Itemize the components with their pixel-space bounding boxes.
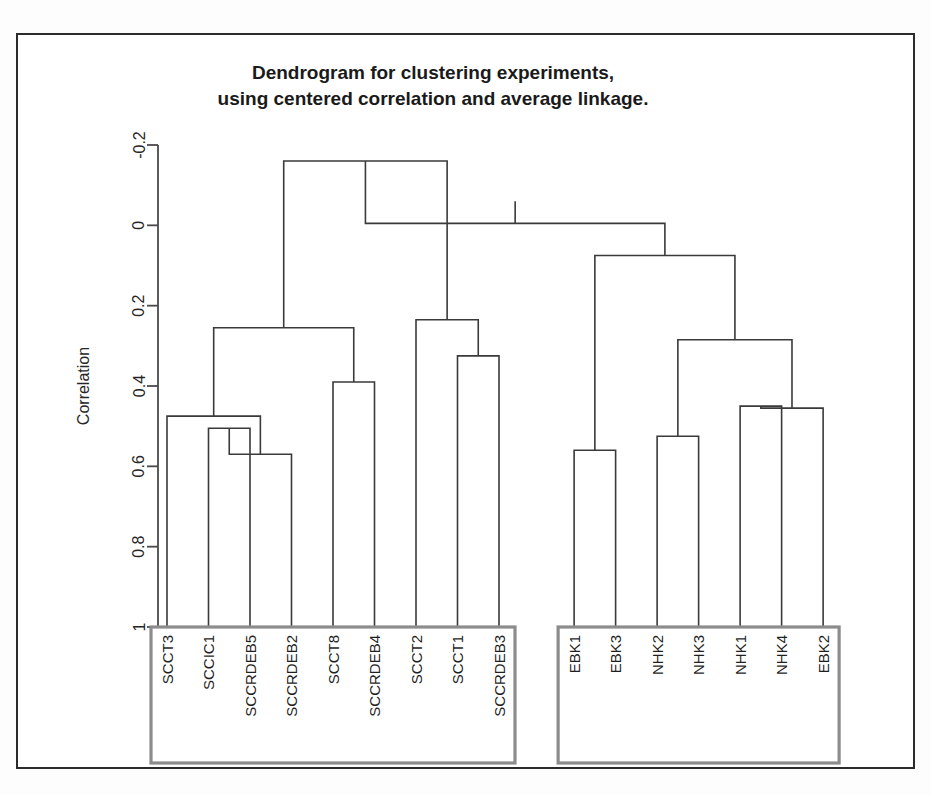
leaf-label: SCCT3 (159, 635, 176, 684)
y-axis-tick-label: 0.2 (131, 294, 148, 316)
leaf-label: SCCRDEB2 (283, 635, 300, 717)
dendrogram-link (229, 428, 291, 627)
dendrogram-link (595, 255, 735, 450)
dendrogram-links-group (167, 161, 823, 627)
figure-frame: Dendrogram for clustering experiments,us… (16, 33, 915, 769)
y-axis-tick-label: 0.6 (131, 455, 148, 477)
leaf-label: SCCRDEB5 (242, 635, 259, 717)
leaf-label: EBK2 (815, 635, 832, 673)
leaf-label: NHK4 (773, 635, 790, 675)
dendrogram-chart: Dendrogram for clustering experiments,us… (18, 35, 913, 767)
dendrogram-link (416, 320, 478, 627)
leaf-label: NHK1 (732, 635, 749, 675)
chart-title-line-1: Dendrogram for clustering experiments, (252, 62, 614, 83)
leaf-label: NHK2 (649, 635, 666, 675)
leaf-label: SCCT8 (325, 635, 342, 684)
dendrogram-link (574, 450, 616, 627)
leaf-labels-group: SCCT3SCCIC1SCCRDEB5SCCRDEB2SCCT8SCCRDEB4… (159, 635, 832, 717)
dendrogram-link (209, 428, 251, 627)
chart-title-group: Dendrogram for clustering experiments,us… (218, 62, 649, 109)
leaf-label: NHK3 (690, 635, 707, 675)
leaf-label: SCCRDEB4 (366, 635, 383, 717)
dendrogram-link (657, 436, 699, 627)
dendrogram-link (740, 406, 782, 627)
leaf-label: EBK3 (607, 635, 624, 673)
leaf-label: SCCT2 (408, 635, 425, 684)
dendrogram-link (761, 406, 823, 627)
y-axis-tick-label: 1 (131, 622, 148, 631)
y-axis-tick-label: -0.2 (131, 131, 148, 159)
y-axis-label: Correlation (75, 347, 92, 425)
figure-root: Dendrogram for clustering experiments,us… (0, 0, 931, 795)
leaf-label: EBK1 (566, 635, 583, 673)
dendrogram-link (167, 416, 260, 627)
y-axis-tick-label: 0 (131, 221, 148, 230)
dendrogram-link (333, 382, 375, 627)
y-axis-tick-label: 0.4 (131, 375, 148, 397)
dendrogram-link (458, 356, 500, 627)
chart-title-line-2: using centered correlation and average l… (218, 88, 649, 109)
dendrogram-link (678, 340, 792, 436)
leaf-label: SCCT1 (449, 635, 466, 684)
leaf-label: SCCIC1 (200, 635, 217, 690)
y-axis-group: -0.200.20.40.60.81Correlation (75, 131, 159, 631)
y-axis-tick-label: 0.8 (131, 535, 148, 557)
leaf-label: SCCRDEB3 (491, 635, 508, 717)
